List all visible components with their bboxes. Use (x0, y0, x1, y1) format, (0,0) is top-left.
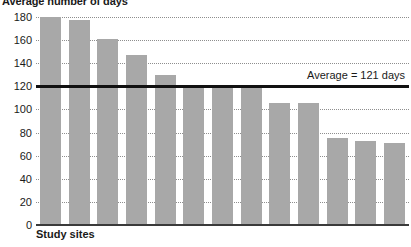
bar (69, 20, 90, 225)
average-line-label: Average = 121 days (305, 69, 407, 81)
bar (97, 39, 118, 225)
y-axis-tick-label: 180 (2, 11, 32, 23)
y-axis-tick-label: 80 (2, 127, 32, 139)
x-axis-line (36, 224, 409, 226)
bar (40, 17, 61, 225)
chart-title: Average number of days (2, 0, 128, 7)
x-axis-label: Study sites (36, 228, 95, 240)
y-axis-tick-label: 140 (2, 57, 32, 69)
bar (241, 85, 262, 225)
bar (355, 141, 376, 225)
y-axis-tick-label: 60 (2, 150, 32, 162)
chart-container: Average number of days 02040608010012014… (0, 0, 411, 247)
bar (126, 55, 147, 225)
y-axis-tick-label: 0 (2, 219, 32, 231)
y-axis-tick-label: 160 (2, 34, 32, 46)
bar (212, 85, 233, 225)
bar-series (36, 17, 409, 225)
bar (269, 103, 290, 225)
plot-area (36, 17, 409, 225)
bar (384, 143, 405, 225)
y-axis-tick-label: 120 (2, 80, 32, 92)
bar (298, 103, 319, 225)
bar (155, 75, 176, 225)
y-axis-tick-label: 20 (2, 196, 32, 208)
average-reference-line (36, 85, 409, 88)
bar (183, 85, 204, 225)
y-axis-tick-label: 100 (2, 103, 32, 115)
y-axis-tick-label: 40 (2, 173, 32, 185)
bar (327, 138, 348, 225)
